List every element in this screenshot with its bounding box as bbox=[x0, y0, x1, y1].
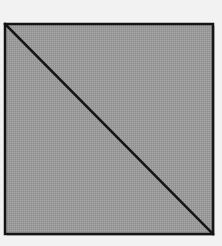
square-diagram: square diagonal bbox=[0, 0, 222, 246]
diagram-canvas bbox=[0, 0, 222, 246]
